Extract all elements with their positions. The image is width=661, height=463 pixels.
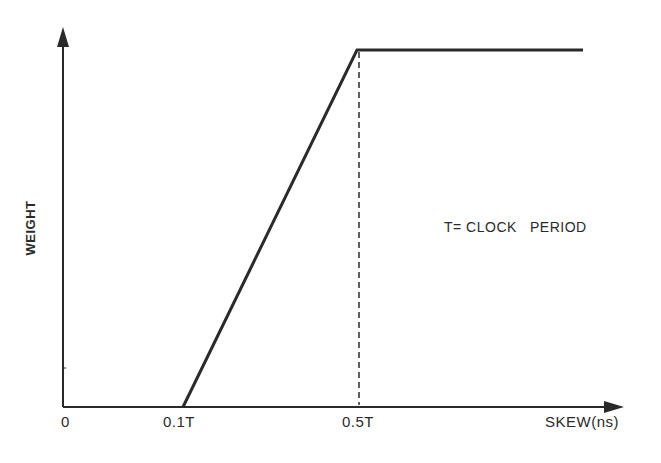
x-axis-label: SKEW(ns)	[545, 413, 619, 430]
y-axis-label: WEIGHT	[23, 201, 38, 256]
y-axis-arrow-icon	[57, 27, 69, 47]
x-axis-arrow-icon	[604, 401, 624, 413]
tick-label-0-1T: 0.1T	[163, 413, 195, 430]
clock-period-annotation: T= CLOCK PERIOD	[444, 219, 587, 235]
tick-label-origin: 0	[61, 413, 70, 430]
tick-label-0-5T: 0.5T	[342, 413, 374, 430]
